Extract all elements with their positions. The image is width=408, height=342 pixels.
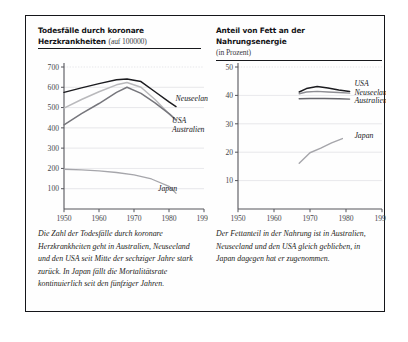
deaths-chart-svg: 1002003004005006007001950196019701980199… [38,59,208,231]
deaths-panel: Todesfälle durch koronare Herzkrankheite… [26,16,205,311]
fat-title-line1: Anteil von Fett an der Nahrungsenergie [216,26,305,46]
svg-text:1960: 1960 [266,214,281,223]
svg-text:50: 50 [225,63,233,72]
svg-text:1950: 1950 [56,214,71,223]
svg-text:400: 400 [48,124,60,133]
deaths-title-line2: Herzkrankheiten [38,37,106,46]
svg-text:USA: USA [172,116,187,125]
deaths-caption: Die Zahl der Todesfälle durch koronare H… [38,228,198,291]
svg-text:Australien: Australien [353,96,386,105]
deaths-plot: 1002003004005006007001950196019701980199… [38,59,197,231]
svg-text:1950: 1950 [230,214,245,223]
svg-text:100: 100 [48,184,60,193]
svg-text:1980: 1980 [161,214,176,223]
panel-container: Todesfälle durch koronare Herzkrankheite… [26,16,384,311]
deaths-title-units: (auf 100000) [108,37,146,46]
svg-text:600: 600 [48,83,60,92]
svg-text:40: 40 [225,91,233,100]
svg-text:1970: 1970 [302,214,317,223]
svg-text:300: 300 [48,144,60,153]
svg-text:Australien: Australien [171,125,205,134]
fat-panel: Anteil von Fett an der Nahrungsenergie (… [205,16,384,311]
fat-caption: Der Fettanteil in der Nahrung ist in Aus… [216,228,376,266]
svg-text:200: 200 [48,164,60,173]
fat-title-units: (in Prozent) [216,48,251,57]
svg-text:1970: 1970 [126,214,141,223]
fat-panel-title: Anteil von Fett an der Nahrungsenergie (… [216,25,376,55]
svg-text:10: 10 [225,176,233,185]
fat-plot: 102030405019501960197019801990USANeuseel… [216,59,376,231]
svg-text:1980: 1980 [338,214,353,223]
svg-text:30: 30 [225,120,233,129]
svg-text:Japan: Japan [158,184,177,193]
svg-text:700: 700 [48,63,60,72]
svg-text:Japan: Japan [354,131,373,140]
figure-frame: Todesfälle durch koronare Herzkrankheite… [25,15,385,312]
svg-text:20: 20 [225,148,233,157]
svg-text:1990: 1990 [374,214,386,223]
svg-text:500: 500 [48,103,60,112]
deaths-title-line1: Todesfälle durch koronare [38,26,144,35]
svg-text:1960: 1960 [91,214,106,223]
deaths-panel-title: Todesfälle durch koronare Herzkrankheite… [38,25,197,55]
deaths-title-rule [38,48,201,49]
svg-text:Neuseeland: Neuseeland [175,94,209,103]
fat-chart-svg: 102030405019501960197019801990USANeuseel… [216,59,386,231]
